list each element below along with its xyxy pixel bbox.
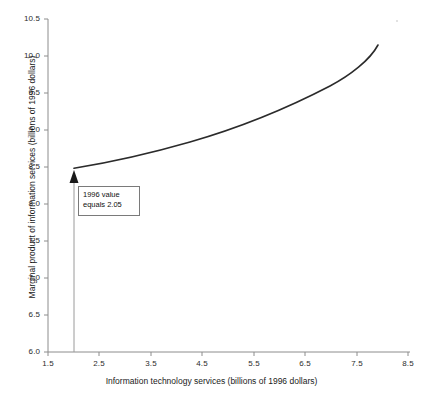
x-tick-label-4-5: 4.5 bbox=[187, 359, 217, 368]
data-curve-line bbox=[74, 45, 378, 168]
chart-plot-area bbox=[0, 0, 423, 408]
y-axis-title: Marginal product of information services… bbox=[27, 27, 37, 327]
scan-artifact-speck bbox=[396, 20, 398, 22]
x-tick-label-7-5: 7.5 bbox=[342, 359, 372, 368]
x-tick-label-8-5: 8.5 bbox=[393, 359, 423, 368]
x-tick-label-2-5: 2.5 bbox=[84, 359, 114, 368]
chart-figure: 10.5 10.0 9.5 9.0 8.5 8.0 7.5 7.0 6.5 6.… bbox=[0, 0, 423, 408]
annotation-callout-line-1: 1996 value bbox=[83, 190, 139, 200]
x-axis-title: Information technology services (billion… bbox=[0, 376, 423, 386]
x-axis-ticks bbox=[48, 352, 408, 356]
annotation-arrowhead-icon bbox=[70, 170, 79, 183]
y-axis-ticks bbox=[44, 19, 48, 352]
x-tick-label-3-5: 3.5 bbox=[136, 359, 166, 368]
y-tick-label-6-0: 6.0 bbox=[14, 347, 40, 356]
x-tick-label-1-5: 1.5 bbox=[33, 359, 63, 368]
annotation-callout-line-2: equals 2.05 bbox=[83, 200, 139, 210]
x-tick-label-6-5: 6.5 bbox=[290, 359, 320, 368]
x-tick-label-5-5: 5.5 bbox=[239, 359, 269, 368]
annotation-callout-box: 1996 value equals 2.05 bbox=[78, 186, 140, 216]
y-tick-label-10-5: 10.5 bbox=[14, 14, 40, 23]
